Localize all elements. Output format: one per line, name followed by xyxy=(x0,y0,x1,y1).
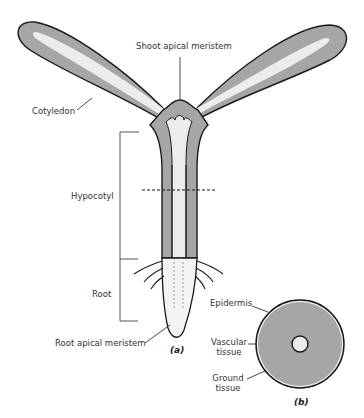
label-vascular-tissue: Vascular tissue xyxy=(210,337,248,357)
label-cotyledon: Cotyledon xyxy=(32,106,75,116)
label-ground-tissue: Ground tissue xyxy=(210,373,246,393)
caption-b: (b) xyxy=(294,397,309,407)
label-root: Root xyxy=(92,289,111,299)
label-hypocotyl: Hypocotyl xyxy=(71,191,114,201)
cross-section xyxy=(256,300,344,388)
hypocotyl-stem xyxy=(150,100,208,258)
caption-a: (a) xyxy=(170,345,184,355)
seedling-diagram xyxy=(0,0,364,418)
right-cotyledon xyxy=(190,25,347,122)
region-bracket xyxy=(120,132,139,321)
label-shoot-apical-meristem: Shoot apical meristem xyxy=(136,41,232,51)
label-epidermis: Epidermis xyxy=(210,298,252,308)
label-root-apical-meristem: Root apical meristem xyxy=(55,338,146,348)
